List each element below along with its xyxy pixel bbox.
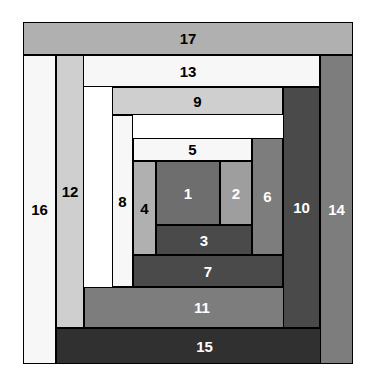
- quilt-piece-17: 17: [23, 22, 353, 55]
- quilt-piece-label-15: 15: [196, 339, 213, 354]
- quilt-piece-16: 16: [23, 55, 56, 364]
- quilt-piece-9: 9: [112, 87, 283, 115]
- quilt-piece-label-12: 12: [62, 184, 79, 199]
- quilt-piece-label-9: 9: [193, 94, 201, 109]
- quilt-piece-label-6: 6: [263, 189, 271, 204]
- quilt-piece-2: 2: [220, 161, 252, 225]
- quilt-piece-13: 13: [56, 55, 320, 87]
- quilt-piece-1: 1: [156, 161, 220, 225]
- quilt-piece-label-8: 8: [118, 194, 126, 209]
- quilt-piece-label-4: 4: [140, 201, 148, 216]
- quilt-piece-label-16: 16: [31, 202, 48, 217]
- quilt-piece-label-11: 11: [194, 300, 210, 315]
- quilt-piece-6: 6: [252, 138, 283, 255]
- quilt-piece-label-10: 10: [293, 200, 310, 215]
- quilt-piece-label-13: 13: [180, 64, 197, 79]
- quilt-piece-12: 12: [56, 55, 84, 328]
- quilt-piece-15: 15: [56, 328, 353, 364]
- quilt-piece-8: 8: [112, 115, 133, 287]
- quilt-piece-label-5: 5: [188, 142, 196, 157]
- quilt-piece-label-7: 7: [204, 264, 212, 279]
- quilt-piece-label-1: 1: [184, 186, 192, 201]
- quilt-piece-label-2: 2: [232, 186, 240, 201]
- quilt-piece-label-3: 3: [200, 233, 208, 248]
- quilt-piece-5: 5: [133, 138, 252, 161]
- quilt-piece-4: 4: [133, 161, 156, 255]
- quilt-piece-14: 14: [320, 55, 353, 364]
- quilt-piece-10: 10: [283, 87, 320, 328]
- log-cabin-quilt-block-figure: 1715141611101312791683542: [0, 0, 372, 382]
- quilt-piece-3: 3: [156, 225, 252, 255]
- quilt-piece-label-14: 14: [328, 202, 345, 217]
- quilt-piece-label-17: 17: [180, 31, 197, 46]
- quilt-piece-7: 7: [133, 255, 283, 287]
